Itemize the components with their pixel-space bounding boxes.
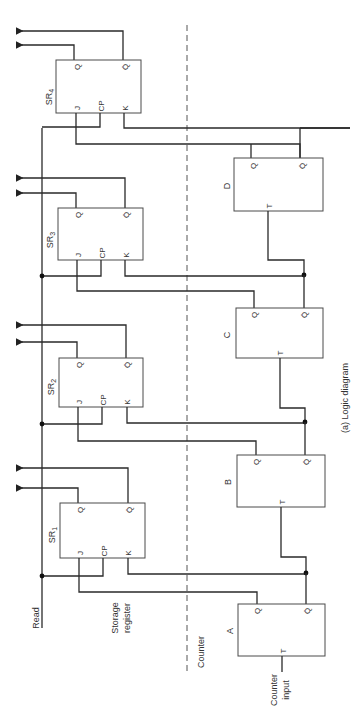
svg-text:CP: CP — [100, 545, 109, 556]
svg-text:Q̄: Q̄ — [123, 362, 132, 368]
svg-text:T: T — [279, 648, 288, 653]
svg-text:T: T — [265, 203, 274, 208]
svg-text:Q̄: Q̄ — [298, 163, 307, 169]
svg-text:SR2: SR2 — [46, 379, 57, 396]
flipflop-d — [234, 158, 323, 275]
svg-text:CP: CP — [97, 100, 106, 111]
storage-label-line2: register — [122, 603, 132, 633]
svg-text:K: K — [123, 399, 132, 405]
counter-input-label-line1: Counter — [269, 674, 279, 706]
junction-dot — [40, 422, 45, 427]
svg-text:Q: Q — [76, 507, 85, 513]
svg-text:Q̄: Q̄ — [300, 312, 309, 318]
svg-text:K: K — [122, 252, 131, 258]
counter-section-label: Counter — [196, 636, 206, 668]
svg-text:Q: Q — [73, 64, 82, 70]
svg-text:CP: CP — [99, 394, 108, 405]
svg-text:J: J — [75, 400, 84, 404]
flipflop-b — [237, 422, 325, 573]
svg-text:Q̄: Q̄ — [303, 608, 312, 614]
svg-text:Q̄: Q̄ — [122, 212, 131, 218]
svg-text:Q: Q — [253, 608, 262, 614]
svg-text:J: J — [74, 253, 83, 257]
svg-text:T: T — [278, 499, 287, 504]
svg-text:C: C — [222, 331, 232, 338]
read-label: Read — [31, 607, 41, 629]
junction-dot — [40, 274, 45, 279]
svg-text:K: K — [124, 550, 133, 556]
svg-text:Q: Q — [250, 312, 259, 318]
svg-text:SR4: SR4 — [44, 89, 55, 106]
svg-text:K: K — [121, 105, 130, 111]
junction-dot — [40, 574, 45, 579]
svg-text:CP: CP — [98, 247, 107, 258]
svg-text:Q: Q — [252, 459, 261, 465]
figure-caption: (a) Logic diagram — [340, 363, 350, 433]
svg-text:SR1: SR1 — [47, 527, 58, 544]
svg-text:A: A — [225, 628, 235, 634]
logic-diagram: SR4 Q Q̄ J CP K SR3 Q Q̄ J CP K SR2 Q Q̄… — [0, 0, 357, 728]
svg-text:D: D — [222, 182, 232, 189]
svg-text:Q̄: Q̄ — [121, 64, 130, 70]
svg-text:Q: Q — [249, 163, 258, 169]
svg-text:J: J — [76, 551, 85, 555]
svg-text:Q: Q — [75, 362, 84, 368]
counter-input-label-line2: input — [281, 680, 291, 700]
svg-text:J: J — [73, 106, 82, 110]
svg-text:Q: Q — [74, 212, 83, 218]
svg-text:SR3: SR3 — [45, 232, 56, 249]
flipflop-sr4 — [22, 31, 350, 158]
flipflop-a — [238, 573, 325, 672]
svg-text:Q̄: Q̄ — [125, 507, 134, 513]
svg-text:Q̄: Q̄ — [302, 459, 311, 465]
storage-label-line1: Storage — [110, 602, 120, 634]
svg-text:T: T — [276, 350, 285, 355]
svg-text:B: B — [223, 479, 233, 485]
flipflop-c — [236, 275, 323, 422]
